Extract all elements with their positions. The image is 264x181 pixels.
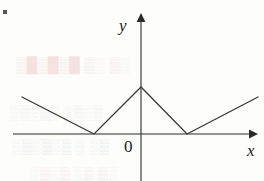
y-axis-label: y: [119, 17, 127, 34]
x-axis-arrowhead: [249, 130, 258, 139]
figure-screenshot: ░▒ ░▒ █▒█▒█▒ ▒░▒░ ░▒░▒░ ▒░ ░ ▒░▒░▒░ ░▒ ▒…: [0, 0, 264, 181]
x-axis-label: x: [247, 142, 255, 159]
origin-label: 0: [124, 138, 133, 155]
y-axis-arrowhead: [137, 13, 146, 22]
w-shaped-curve: [22, 87, 258, 134]
